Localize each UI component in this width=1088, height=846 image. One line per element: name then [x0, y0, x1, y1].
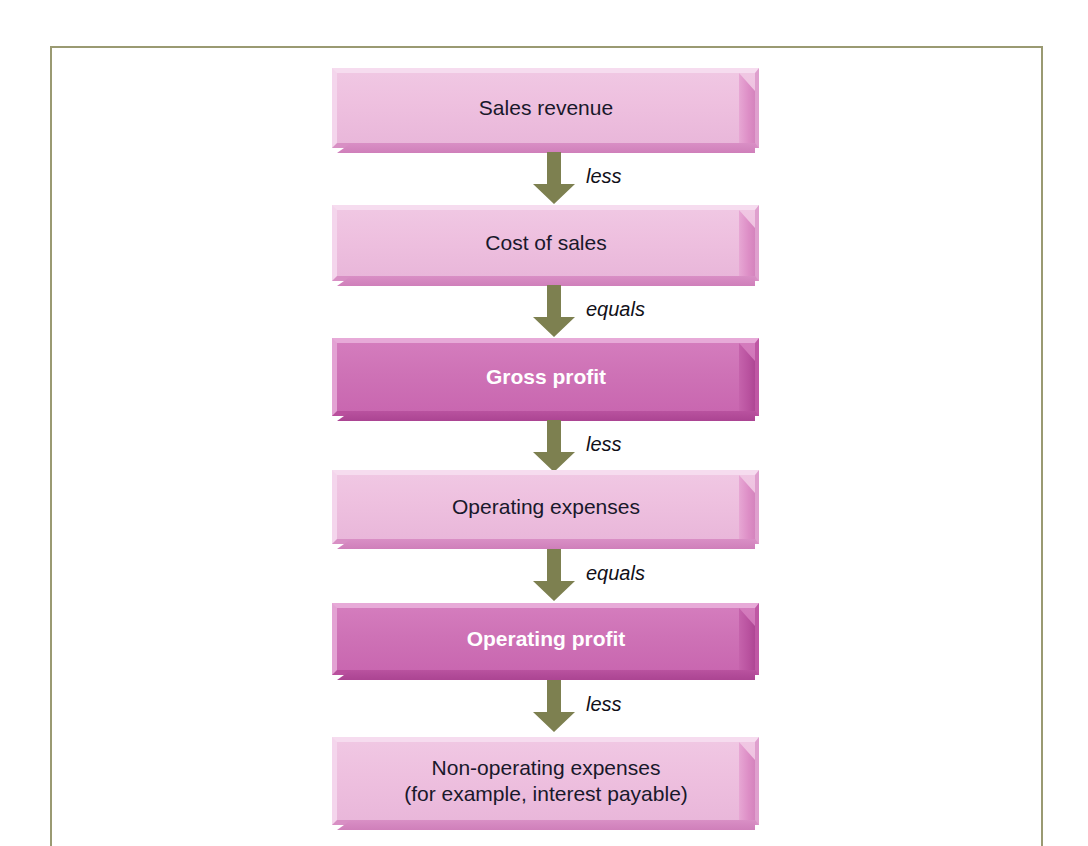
node-sales-revenue: Sales revenue	[332, 68, 775, 148]
connector-less-3: less	[0, 680, 1088, 732]
node-bevel-bottom	[337, 670, 755, 680]
connector-operator-label: less	[586, 433, 622, 456]
connector-equals-1: equals	[0, 285, 1088, 337]
node-bevel-bottom	[337, 539, 755, 549]
node-slab: Operating profit	[332, 603, 759, 675]
node-operating-profit: Operating profit	[332, 603, 775, 675]
node-bevel-right	[739, 475, 755, 539]
node-slab: Non-operating expenses (for example, int…	[332, 737, 759, 825]
down-arrow-icon	[530, 420, 578, 472]
node-bevel-right	[739, 73, 755, 143]
down-arrow-icon	[530, 285, 578, 337]
node-gross-profit: Gross profit	[332, 338, 775, 416]
node-bevel-bottom	[337, 820, 755, 830]
connector-operator-label: equals	[586, 298, 645, 321]
node-bevel-right	[739, 210, 755, 276]
connector-operator-label: less	[586, 693, 622, 716]
node-label-line2: (for example, interest payable)	[404, 781, 688, 807]
node-slab: Sales revenue	[332, 68, 759, 148]
down-arrow-icon	[530, 152, 578, 204]
node-label: Sales revenue	[465, 95, 627, 121]
node-slab: Cost of sales	[332, 205, 759, 281]
node-bevel-right	[739, 742, 755, 820]
connector-less-1: less	[0, 152, 1088, 204]
node-label: Operating expenses	[438, 494, 654, 520]
down-arrow-icon	[530, 549, 578, 601]
connector-less-2: less	[0, 420, 1088, 472]
connector-operator-label: less	[586, 165, 622, 188]
node-slab: Operating expenses	[332, 470, 759, 544]
down-arrow-icon	[530, 680, 578, 732]
node-operating-expenses: Operating expenses	[332, 470, 775, 544]
node-label: Operating profit	[453, 626, 640, 652]
node-label: Gross profit	[472, 364, 620, 390]
node-cost-of-sales: Cost of sales	[332, 205, 775, 281]
node-bevel-right	[739, 343, 755, 411]
connector-operator-label: equals	[586, 562, 645, 585]
node-label: Cost of sales	[471, 230, 620, 256]
node-slab: Gross profit	[332, 338, 759, 416]
node-bevel-right	[739, 608, 755, 670]
node-non-operating-expenses: Non-operating expenses (for example, int…	[332, 737, 775, 825]
node-label: Non-operating expenses (for example, int…	[390, 755, 702, 806]
node-label-line1: Non-operating expenses	[432, 756, 661, 779]
connector-equals-2: equals	[0, 549, 1088, 601]
